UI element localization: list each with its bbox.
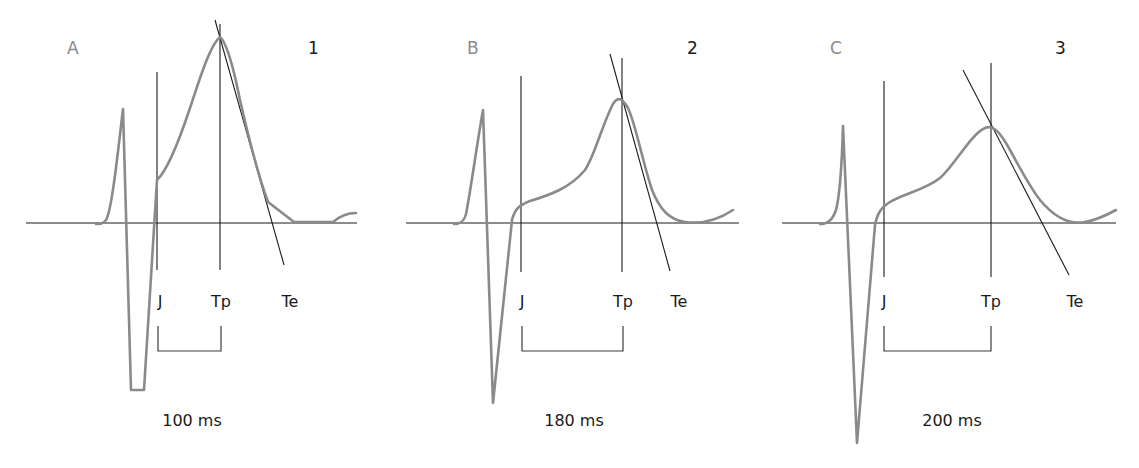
ecg-figure: A 1 J Tp Te 100 ms B 2 J Tp Te 180 ms C … bbox=[0, 0, 1139, 468]
ecg-diagram-svg bbox=[0, 0, 1139, 468]
panel-letter-a: A bbox=[67, 38, 79, 58]
label-j-b: J bbox=[520, 292, 525, 311]
label-j-c: J bbox=[882, 292, 887, 311]
panel-b bbox=[406, 54, 739, 403]
label-te-c: Te bbox=[1067, 292, 1084, 311]
label-te-b: Te bbox=[671, 292, 688, 311]
label-te-a: Te bbox=[282, 292, 299, 311]
panel-number-1: 1 bbox=[308, 38, 319, 58]
panel-number-3: 3 bbox=[1055, 38, 1066, 58]
label-tp-c: Tp bbox=[981, 292, 1001, 311]
label-tp-a: Tp bbox=[211, 292, 231, 311]
panel-number-2: 2 bbox=[687, 38, 698, 58]
panel-a bbox=[26, 20, 357, 390]
interval-bracket-b bbox=[522, 326, 623, 351]
tangent-line-c bbox=[963, 70, 1069, 275]
interval-bracket-a bbox=[158, 326, 221, 351]
ecg-trace-c bbox=[820, 126, 1116, 443]
interval-label-c: 200 ms bbox=[922, 411, 982, 430]
interval-bracket-c bbox=[884, 326, 991, 351]
panel-c bbox=[782, 63, 1116, 443]
panel-letter-b: B bbox=[467, 38, 479, 58]
label-tp-b: Tp bbox=[613, 292, 633, 311]
panel-letter-c: C bbox=[830, 38, 842, 58]
interval-label-a: 100 ms bbox=[162, 411, 222, 430]
interval-label-b: 180 ms bbox=[544, 411, 604, 430]
ecg-trace-a bbox=[96, 37, 356, 390]
label-j-a: J bbox=[158, 292, 163, 311]
ecg-trace-b bbox=[454, 99, 733, 403]
tangent-line-b bbox=[610, 54, 670, 271]
